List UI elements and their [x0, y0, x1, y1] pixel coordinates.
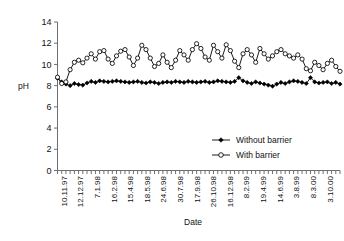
data-point-marker	[245, 48, 249, 52]
data-point-marker	[174, 58, 178, 62]
data-point-marker	[292, 56, 296, 60]
data-point-marker	[144, 81, 148, 85]
data-point-marker	[123, 48, 127, 52]
data-point-marker	[207, 58, 211, 62]
data-point-marker	[161, 53, 165, 57]
data-point-marker	[119, 79, 123, 83]
data-point-marker	[127, 55, 131, 59]
data-point-marker	[81, 83, 85, 87]
data-point-marker	[106, 80, 110, 84]
y-tick-label-14: 14	[41, 17, 51, 27]
data-point-marker	[270, 54, 274, 58]
x-tick-label: 26.10.98	[209, 175, 218, 207]
chart-canvas: 02468101214pH10.11.9712.12.977.1.9816.2.…	[0, 0, 344, 241]
series-without-barrier	[55, 76, 342, 89]
data-point-marker	[207, 80, 211, 84]
data-point-marker	[165, 60, 169, 64]
y-tick-label-8: 8	[46, 81, 51, 91]
data-point-marker	[224, 80, 228, 84]
data-point-marker	[182, 53, 186, 57]
data-point-marker	[85, 56, 89, 60]
data-point-marker	[283, 81, 287, 85]
data-point-marker	[321, 80, 325, 84]
data-point-marker	[114, 54, 118, 58]
data-point-marker	[262, 82, 266, 86]
data-point-marker	[203, 79, 207, 83]
data-point-marker	[165, 80, 169, 84]
data-point-marker	[279, 48, 283, 52]
data-point-marker	[254, 60, 258, 64]
data-point-marker	[152, 64, 156, 68]
data-point-marker	[136, 56, 140, 60]
data-point-marker	[317, 81, 321, 85]
data-point-marker	[266, 57, 270, 61]
y-tick-label-0: 0	[46, 166, 51, 176]
data-point-marker	[220, 56, 224, 60]
data-point-marker	[157, 61, 161, 65]
data-point-marker	[224, 43, 228, 47]
data-point-marker	[106, 57, 110, 61]
data-point-marker	[195, 42, 199, 46]
data-point-marker	[140, 80, 144, 84]
data-point-marker	[178, 49, 182, 53]
data-point-marker	[195, 80, 199, 84]
data-point-marker	[334, 80, 338, 84]
data-point-marker	[89, 79, 93, 83]
data-point-marker	[186, 79, 190, 83]
data-point-marker	[300, 57, 304, 61]
data-point-marker	[131, 63, 135, 67]
data-point-marker	[140, 43, 144, 47]
x-tick-label: 30.7.98	[176, 175, 185, 202]
data-point-marker	[89, 52, 93, 56]
data-point-marker	[237, 66, 241, 70]
data-point-marker	[228, 49, 232, 53]
x-tick-label: 14.6.99	[276, 175, 285, 202]
data-point-marker	[114, 79, 118, 83]
data-point-marker	[144, 48, 148, 52]
data-point-marker	[93, 57, 97, 61]
data-point-marker	[173, 79, 177, 83]
legend-marker-diamond	[219, 138, 224, 143]
x-tick-label: 12.12.97	[76, 175, 85, 207]
data-point-marker	[233, 59, 237, 63]
data-point-marker	[300, 80, 304, 84]
series-with-barrier	[55, 42, 342, 86]
y-tick-label-10: 10	[41, 60, 51, 70]
data-point-marker	[321, 68, 325, 72]
data-point-marker	[228, 80, 232, 84]
data-point-marker	[199, 80, 203, 84]
data-point-marker	[325, 61, 329, 65]
data-point-marker	[338, 82, 342, 86]
data-point-marker	[330, 58, 334, 62]
data-point-marker	[334, 64, 338, 68]
data-point-marker	[161, 80, 165, 84]
y-axis-title: pH	[18, 81, 29, 91]
y-tick-label-4: 4	[46, 123, 51, 133]
data-point-marker	[279, 80, 283, 84]
data-point-marker	[190, 48, 194, 52]
data-point-marker	[119, 49, 123, 53]
data-point-marker	[313, 60, 317, 64]
x-tick-label: 3.10.00	[326, 175, 335, 202]
data-point-marker	[190, 80, 194, 84]
data-point-marker	[110, 79, 114, 83]
y-tick-label-6: 6	[46, 102, 51, 112]
data-point-marker	[262, 52, 266, 56]
data-point-marker	[152, 80, 156, 84]
x-axis-title: Date	[184, 217, 202, 227]
ph-time-series-chart: 02468101214pH10.11.9712.12.977.1.9816.2.…	[0, 0, 344, 241]
data-point-marker	[249, 53, 253, 57]
data-point-marker	[249, 81, 253, 85]
x-tick-label: 24.6.98	[159, 175, 168, 202]
chart-legend: Without barrierWith barrier	[212, 135, 292, 160]
data-point-marker	[308, 69, 312, 73]
x-tick-label: 19.4.99	[259, 175, 268, 202]
data-point-marker	[287, 54, 291, 58]
data-point-marker	[85, 81, 89, 85]
data-point-marker	[216, 79, 220, 83]
data-point-marker	[72, 81, 76, 85]
data-point-marker	[211, 43, 215, 47]
x-tick-label: 17.9.98	[193, 175, 202, 202]
legend-label: Without barrier	[236, 135, 292, 145]
data-point-marker	[169, 66, 173, 70]
